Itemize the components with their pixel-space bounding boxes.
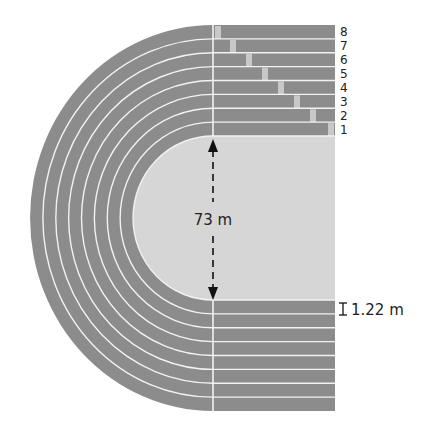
start-marker-lane-3 [294,95,300,108]
lane-label-1: 1 [340,123,348,137]
lane-label-6: 6 [340,53,348,67]
lane-label-8: 8 [340,25,348,39]
start-marker-lane-1 [328,123,334,136]
start-marker-lane-6 [246,54,252,67]
field-width-label: 73 m [194,211,232,229]
start-marker-lane-7 [230,40,236,53]
start-marker-lane-2 [310,109,316,122]
infield [133,136,335,300]
lane-label-2: 2 [340,109,348,123]
lane-label-4: 4 [340,81,348,95]
lane-width-dimension: 1.22 m [339,301,404,319]
lane-label-3: 3 [340,95,348,109]
start-marker-lane-8 [215,26,221,39]
lane-label-7: 7 [340,39,348,53]
lane-labels: 12345678 [340,25,348,136]
start-marker-lane-4 [278,82,284,95]
lane-label-5: 5 [340,67,348,81]
track-diagram: 73 m 1.22 m 12345678 [0,0,432,429]
track [30,25,335,411]
start-marker-lane-5 [262,68,268,81]
lane-width-label: 1.22 m [351,301,404,319]
